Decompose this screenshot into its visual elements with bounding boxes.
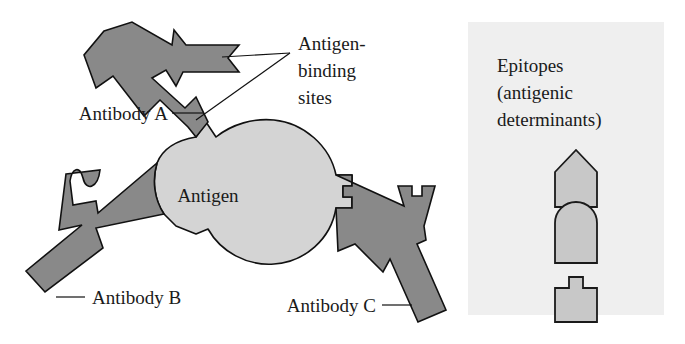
antibody-a-label: Antibody A [79, 103, 168, 124]
binding-sites-label-line1: Antigen- [298, 33, 366, 54]
antibody-antigen-diagram: Antigen Antibody A Antibody B Antibody C… [0, 0, 685, 344]
antigen-label: Antigen [177, 185, 239, 206]
antibody-c-label: Antibody C [287, 295, 376, 316]
dome-epitope-icon [555, 202, 597, 263]
legend-title-line2: (antigenic [497, 82, 573, 104]
antibody-b-label: Antibody B [92, 287, 181, 308]
binding-sites-label-line2: binding [298, 60, 357, 81]
antibody-b-group [26, 163, 164, 292]
legend-title-line3: determinants) [497, 109, 601, 131]
legend-title-line1: Epitopes [497, 55, 564, 76]
binding-sites-label-line3: sites [298, 87, 332, 108]
antigen-binding-sites-label: Antigen- binding sites [298, 33, 366, 108]
figure-canvas: Antigen Antibody A Antibody B Antibody C… [0, 0, 685, 344]
antibody-b-shape [26, 163, 164, 292]
